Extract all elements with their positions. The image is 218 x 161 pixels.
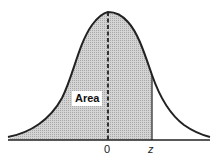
normal-curve-diagram bbox=[0, 0, 218, 161]
tick-label-zero: 0 bbox=[104, 143, 110, 155]
tick-label-z: z bbox=[148, 143, 154, 155]
area-label: Area bbox=[72, 91, 102, 106]
shaded-area bbox=[8, 12, 152, 140]
